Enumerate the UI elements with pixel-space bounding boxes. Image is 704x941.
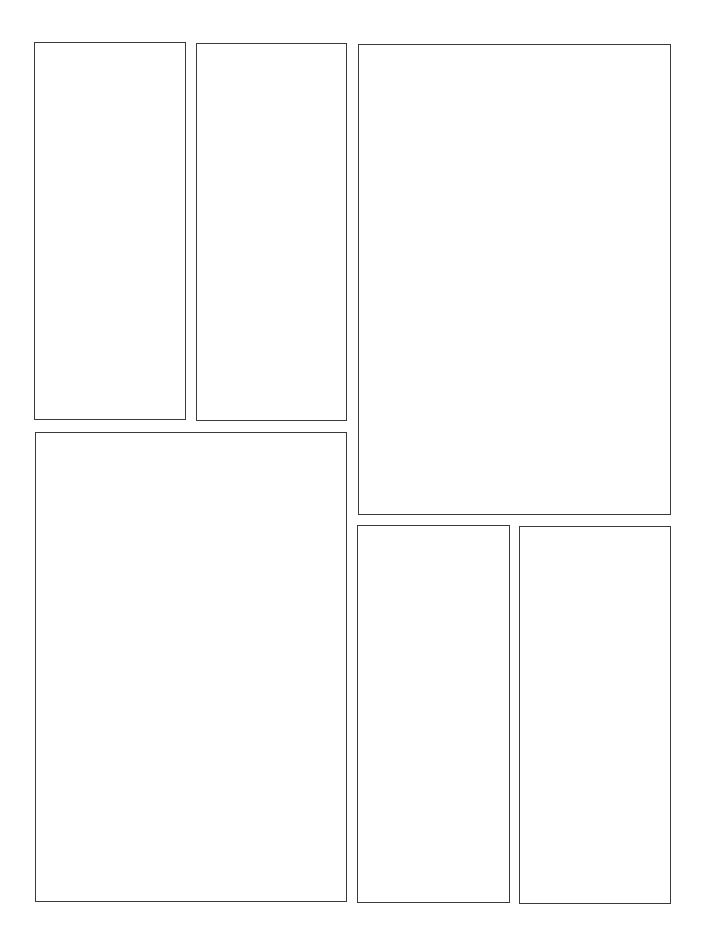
panel-4 xyxy=(35,432,347,902)
comic-page xyxy=(0,0,704,941)
panel-6 xyxy=(519,526,671,904)
panel-3 xyxy=(358,44,671,515)
panel-5 xyxy=(357,525,510,903)
panel-1 xyxy=(34,42,186,420)
panel-2 xyxy=(196,43,347,421)
